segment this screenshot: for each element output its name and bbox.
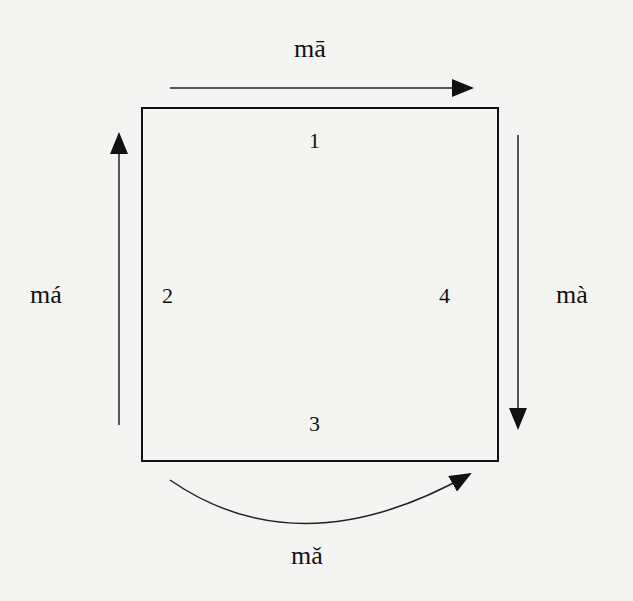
tone-4-number: 4: [439, 285, 450, 307]
tone-1-number: 1: [309, 130, 320, 152]
tone-4-syllable: mà: [556, 282, 588, 308]
tone-2-number: 2: [162, 285, 173, 307]
tone-diagram: mā má mǎ mà 1 2 3 4: [0, 0, 633, 601]
tone-2-syllable: má: [30, 282, 62, 308]
diagram-graphics: [0, 0, 633, 601]
tone-3-number: 3: [309, 413, 320, 435]
tone-3-syllable: mǎ: [291, 543, 323, 569]
tone-1-syllable: mā: [294, 36, 326, 62]
arrow-curved-icon: [170, 474, 470, 524]
